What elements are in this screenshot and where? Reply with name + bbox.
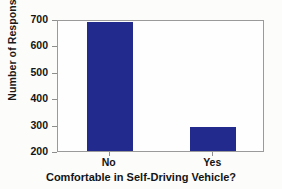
x-tick-label: No xyxy=(102,156,116,168)
bar xyxy=(190,127,236,151)
y-tick-label: 700 xyxy=(14,14,48,25)
x-axis-title: Comfortable in Self-Driving Vehicle? xyxy=(0,171,282,183)
y-tick-label: 300 xyxy=(14,120,48,131)
y-tick-label: 200 xyxy=(14,146,48,157)
x-tick-label: Yes xyxy=(203,156,221,168)
y-tick-mark xyxy=(52,152,57,153)
y-tick-label: 400 xyxy=(14,93,48,104)
bar-chart: Number of Responses 200300400500600700 N… xyxy=(0,0,282,189)
bar xyxy=(87,22,133,151)
y-tick-label: 500 xyxy=(14,67,48,78)
plot-area xyxy=(57,20,264,152)
y-tick-label: 600 xyxy=(14,40,48,51)
bars-container xyxy=(58,21,263,151)
